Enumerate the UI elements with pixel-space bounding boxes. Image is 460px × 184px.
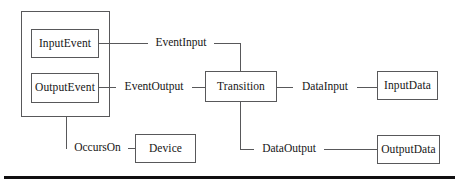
node-device-label: Device	[149, 143, 182, 155]
node-transition-label: Transition	[217, 81, 265, 93]
edge-data-output-vertical	[240, 102, 241, 150]
edge-label-event-output: EventOutput	[116, 81, 192, 93]
edge-label-occurs-on: OccursOn	[67, 142, 128, 154]
node-output-event-label: OutputEvent	[35, 82, 95, 94]
edge-event-input-vertical	[240, 43, 241, 71]
node-output-data-label: OutputData	[381, 144, 436, 156]
node-input-data-label: InputData	[384, 80, 431, 92]
edge-label-data-output: DataOutput	[254, 143, 324, 155]
node-device[interactable]: Device	[135, 134, 196, 163]
footer-rule	[4, 176, 455, 179]
diagram-canvas: InputEvent OutputEvent Transition Device…	[0, 0, 460, 184]
edge-label-event-input: EventInput	[148, 37, 214, 49]
node-output-event[interactable]: OutputEvent	[31, 73, 99, 103]
node-input-event[interactable]: InputEvent	[31, 29, 99, 58]
node-transition[interactable]: Transition	[205, 71, 277, 102]
node-input-data[interactable]: InputData	[377, 71, 438, 100]
node-output-data[interactable]: OutputData	[377, 135, 440, 164]
edge-label-data-input: DataInput	[293, 81, 357, 93]
node-input-event-label: InputEvent	[39, 38, 91, 50]
